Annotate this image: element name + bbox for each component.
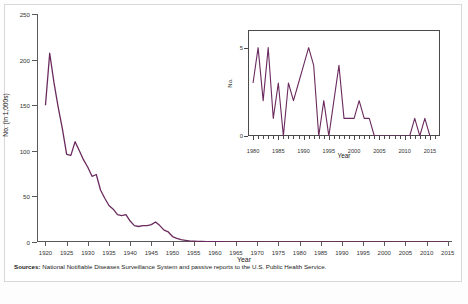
main-x-tick-label: 1985: [314, 250, 327, 256]
main-y-tick: [32, 60, 37, 61]
main-x-tick-label: 2015: [441, 250, 454, 256]
main-x-tick-label: 2010: [420, 250, 433, 256]
main-x-tick: [236, 242, 237, 246]
inset-x-tick: [339, 136, 340, 139]
main-x-tick-label: 1975: [272, 250, 285, 256]
main-x-tick: [67, 242, 68, 246]
main-x-tick: [342, 242, 343, 246]
inset-x-tick: [435, 136, 436, 139]
inset-x-tick-label: 2010: [398, 148, 410, 154]
inset-x-tick-label: 1995: [323, 148, 335, 154]
inset-x-tick: [425, 136, 426, 139]
main-y-tick-label: 150: [20, 102, 30, 109]
inset-y-tick-label: 5: [240, 45, 243, 51]
main-x-tick-label: 1940: [123, 250, 136, 256]
inset-x-tick: [415, 136, 416, 139]
main-x-tick-label: 2000: [378, 250, 391, 256]
inset-x-tick: [359, 136, 360, 139]
inset-x-tick: [319, 136, 320, 139]
main-y-tick: [32, 151, 37, 152]
main-x-tick-label: 1920: [39, 250, 52, 256]
main-y-tick-label: 200: [20, 56, 30, 63]
main-x-tick: [45, 242, 46, 246]
inset-x-tick: [263, 136, 264, 139]
source-label: Sources:: [14, 263, 40, 270]
main-y-tick-label: 50: [23, 193, 30, 200]
inset-x-tick: [299, 136, 300, 139]
main-x-axis-label: Year: [237, 256, 251, 263]
inset-chart-plot-area: 05 19801985199019952000200520102015: [248, 30, 440, 136]
inset-y-tick: [244, 136, 248, 137]
main-y-tick-label: 0: [27, 239, 30, 246]
inset-x-tick: [324, 136, 325, 139]
inset-x-tick: [389, 136, 390, 139]
main-x-tick: [88, 242, 89, 246]
main-x-tick: [405, 242, 406, 246]
inset-chart-series: [248, 30, 440, 136]
main-x-tick: [194, 242, 195, 246]
main-y-tick-label: 100: [20, 147, 30, 154]
inset-y-tick: [244, 48, 248, 49]
main-x-tick: [300, 242, 301, 246]
inset-x-tick: [304, 136, 305, 140]
source-text: National Notifiable Diseases Surveillanc…: [42, 263, 326, 270]
inset-x-tick-label: 2005: [373, 148, 385, 154]
inset-x-tick-label: 1985: [272, 148, 284, 154]
inset-x-tick: [273, 136, 274, 139]
main-x-tick: [363, 242, 364, 246]
inset-x-tick: [309, 136, 310, 139]
inset-x-tick: [384, 136, 385, 139]
inset-x-tick: [278, 136, 279, 140]
main-x-tick-label: 1990: [335, 250, 348, 256]
inset-x-tick: [349, 136, 350, 139]
inset-x-tick-label: 2015: [424, 148, 436, 154]
inset-x-tick: [410, 136, 411, 139]
inset-x-tick-label: 1990: [297, 148, 309, 154]
inset-x-tick: [253, 136, 254, 140]
figure-page: 050100150200250 192019251930193519401945…: [0, 0, 468, 304]
main-y-tick: [32, 242, 37, 243]
inset-chart: 05 19801985199019952000200520102015 No. …: [222, 28, 448, 164]
inset-x-tick: [293, 136, 294, 139]
main-x-tick-label: 1970: [251, 250, 264, 256]
inset-x-tick: [374, 136, 375, 139]
inset-x-tick: [420, 136, 421, 139]
inset-x-tick: [395, 136, 396, 139]
inset-x-tick: [329, 136, 330, 140]
inset-x-tick: [379, 136, 380, 140]
inset-x-tick: [400, 136, 401, 139]
main-x-tick-label: 1995: [356, 250, 369, 256]
inset-y-tick-label: 0: [240, 133, 243, 139]
main-x-tick: [173, 242, 174, 246]
main-x-tick-label: 1935: [102, 250, 115, 256]
inset-x-tick: [258, 136, 259, 139]
inset-x-tick: [344, 136, 345, 139]
main-y-tick: [32, 196, 37, 197]
main-x-tick-label: 1945: [145, 250, 158, 256]
main-x-tick-label: 1925: [60, 250, 73, 256]
main-x-tick: [384, 242, 385, 246]
main-x-tick-label: 1950: [166, 250, 179, 256]
main-x-tick-label: 1980: [293, 250, 306, 256]
main-x-tick-label: 1955: [187, 250, 200, 256]
inset-x-axis-label: Year: [338, 152, 351, 159]
main-y-tick-label: 250: [20, 11, 30, 18]
inset-x-tick: [430, 136, 431, 140]
source-note: Sources: National Notifiable Diseases Su…: [14, 263, 326, 270]
main-y-axis-label: No. (in 1,000s): [2, 93, 9, 136]
main-x-tick: [448, 242, 449, 246]
main-x-tick: [427, 242, 428, 246]
inset-x-tick: [405, 136, 406, 140]
inset-series-line: [253, 48, 430, 136]
inset-x-tick: [288, 136, 289, 139]
inset-x-tick: [268, 136, 269, 139]
inset-x-tick: [334, 136, 335, 139]
inset-x-tick: [314, 136, 315, 139]
inset-x-tick: [369, 136, 370, 139]
inset-y-axis-label: No.: [227, 78, 233, 87]
inset-x-tick: [283, 136, 284, 139]
main-x-tick: [278, 242, 279, 246]
main-x-tick: [130, 242, 131, 246]
main-y-tick: [32, 105, 37, 106]
main-x-tick: [257, 242, 258, 246]
